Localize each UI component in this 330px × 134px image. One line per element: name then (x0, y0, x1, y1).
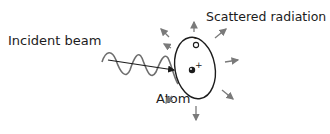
incident-beam-label: Incident beam (8, 33, 101, 48)
nucleus-highlight (190, 68, 192, 70)
electron-charge: - (194, 34, 197, 43)
scatter-arrow-8 (164, 44, 171, 48)
electron-icon (193, 42, 198, 47)
scatter-arrow-4 (222, 90, 233, 99)
nucleus-charge: + (195, 60, 203, 70)
scattering-diagram: Incident beam Scattered radiation Atom -… (0, 0, 330, 134)
scatter-arrow-3 (225, 60, 238, 62)
scatter-arrow-2 (215, 29, 226, 38)
scattered-radiation-label: Scattered radiation (206, 9, 326, 24)
scatter-arrow-7 (161, 29, 169, 37)
